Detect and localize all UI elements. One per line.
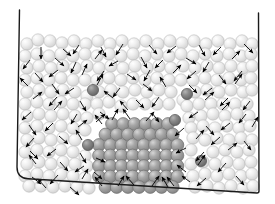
fluid-particle bbox=[56, 37, 68, 49]
fluid-particle bbox=[246, 168, 258, 180]
fluid-particle bbox=[117, 62, 129, 74]
fluid-particle bbox=[57, 108, 69, 120]
fluid-particle bbox=[43, 146, 55, 158]
fluid-particle bbox=[181, 100, 193, 112]
fluid-particle bbox=[223, 168, 235, 180]
fluid-particle bbox=[189, 181, 201, 193]
fluid-particle bbox=[45, 134, 57, 146]
fluid-particle bbox=[153, 84, 165, 96]
fluid-particle bbox=[140, 35, 152, 47]
fluid-particle bbox=[197, 120, 209, 132]
fluid-particle bbox=[81, 112, 93, 124]
fluid-particle bbox=[207, 108, 219, 120]
fluid-particle bbox=[247, 180, 259, 192]
fluid-particle bbox=[43, 50, 55, 62]
fluid-particle bbox=[199, 134, 211, 146]
fluid-particle bbox=[199, 48, 211, 60]
fluid-particle bbox=[45, 86, 57, 98]
fluid-particle bbox=[83, 182, 95, 194]
fluid-particle bbox=[79, 124, 91, 136]
fluid-particle bbox=[31, 72, 43, 84]
fluid-particle bbox=[127, 98, 139, 110]
fluid-particle bbox=[165, 62, 177, 74]
fluid-particle bbox=[151, 72, 163, 84]
fluid-particle bbox=[55, 72, 67, 84]
impurity-particle bbox=[169, 114, 180, 125]
fluid-particle bbox=[19, 122, 31, 134]
fluid-particle bbox=[23, 180, 35, 192]
simulation-scene bbox=[0, 0, 275, 204]
fluid-particle bbox=[164, 35, 176, 47]
fluid-particle bbox=[207, 146, 219, 158]
fluid-particle bbox=[45, 110, 57, 122]
fluid-particle bbox=[47, 181, 59, 193]
fluid-particle bbox=[21, 86, 33, 98]
fluid-particle bbox=[246, 60, 258, 72]
fluid-particle bbox=[211, 170, 223, 182]
fluid-particle bbox=[21, 134, 33, 146]
fluid-particle bbox=[223, 48, 235, 60]
fluid-particle bbox=[245, 48, 257, 60]
fluid-particle bbox=[225, 180, 237, 192]
fluid-particle bbox=[44, 35, 56, 47]
fluid-particle bbox=[245, 72, 257, 84]
fluid-particle bbox=[115, 50, 127, 62]
fluid-particle bbox=[139, 50, 151, 62]
fluid-particle bbox=[55, 120, 67, 132]
fluid-particle bbox=[45, 158, 57, 170]
fluid-particle bbox=[55, 168, 67, 180]
fluid-particle bbox=[33, 108, 45, 120]
impurity-particle bbox=[82, 139, 93, 150]
fluid-particle bbox=[57, 132, 69, 144]
fluid-particle bbox=[81, 60, 93, 72]
fluid-particle bbox=[21, 38, 33, 50]
fluid-particle bbox=[69, 158, 81, 170]
fluid-particle bbox=[21, 158, 33, 170]
fluid-particle bbox=[67, 146, 79, 158]
fluid-particle bbox=[19, 146, 31, 158]
fluid-particle bbox=[127, 48, 139, 60]
fluid-particle bbox=[185, 144, 197, 156]
fluid-particle bbox=[187, 170, 199, 182]
fluid-particle bbox=[43, 74, 55, 86]
impurity-particle bbox=[87, 84, 98, 95]
fluid-particle bbox=[129, 84, 141, 96]
fluid-particle bbox=[245, 156, 257, 168]
fluid-particle bbox=[31, 96, 43, 108]
fluid-particle bbox=[187, 74, 199, 86]
fluid-particle bbox=[165, 86, 177, 98]
fluid-particle bbox=[219, 144, 231, 156]
fluid-particle bbox=[139, 98, 151, 110]
fluid-particle bbox=[67, 98, 79, 110]
fluid-particle bbox=[231, 146, 243, 158]
fluid-particle bbox=[225, 60, 237, 72]
fluid-particle bbox=[199, 72, 211, 84]
fluid-particle bbox=[163, 98, 175, 110]
fluid-particle bbox=[177, 60, 189, 72]
fluid-particle bbox=[212, 35, 224, 47]
fluid-particle bbox=[19, 74, 31, 86]
fluid-particle bbox=[115, 74, 127, 86]
fluid-particle bbox=[246, 84, 258, 96]
fluid-particle bbox=[55, 144, 67, 156]
impurity-particle bbox=[181, 88, 192, 99]
fluid-particle bbox=[221, 120, 233, 132]
fluid-particle bbox=[188, 35, 200, 47]
fluid-particle bbox=[117, 86, 129, 98]
fluid-particle bbox=[67, 50, 79, 62]
fluid-particle bbox=[213, 182, 225, 194]
fluid-particle bbox=[31, 168, 43, 180]
fluid-particle bbox=[211, 74, 223, 86]
fluid-particle bbox=[176, 37, 188, 49]
fluid-particle bbox=[187, 50, 199, 62]
fluid-particle bbox=[233, 158, 245, 170]
fluid-particle bbox=[67, 170, 79, 182]
fluid-particle bbox=[43, 122, 55, 134]
fluid-particle bbox=[105, 60, 117, 72]
fluid-particle bbox=[217, 98, 229, 110]
fluid-particle bbox=[67, 74, 79, 86]
figure-canvas bbox=[0, 0, 275, 204]
fluid-particle bbox=[69, 110, 81, 122]
fluid-particle bbox=[175, 74, 187, 86]
fluid-particle bbox=[193, 98, 205, 110]
